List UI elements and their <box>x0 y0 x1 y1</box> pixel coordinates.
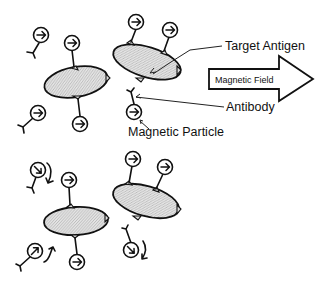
particle-arrow-icon <box>65 36 80 51</box>
particle-arrow-icon <box>31 163 46 178</box>
free-magnetic-particle <box>27 28 49 59</box>
bound-magnetic-particle <box>163 23 178 52</box>
target-antigen <box>109 177 183 225</box>
rotation-arrow-icon <box>142 241 147 259</box>
particle-arrow-icon <box>73 117 88 132</box>
rotation-arrow-icon <box>46 163 53 183</box>
free-magnetic-particle <box>18 106 46 134</box>
particle-arrow-icon <box>70 255 85 270</box>
magnetic-immunoassay-diagram: Target Antigen Antibody Magnetic Particl… <box>0 0 322 283</box>
particle-arrow-icon <box>127 105 142 120</box>
antibody-leader <box>136 97 224 107</box>
target-antigen <box>43 204 109 238</box>
bound-magnetic-particle <box>62 173 77 206</box>
bound-magnetic-particle <box>126 152 141 184</box>
label-antibody: Antibody <box>226 100 275 114</box>
target-antigen <box>109 37 185 86</box>
rotating-magnetic-particle <box>27 163 53 194</box>
label-magnetic-particle: Magnetic Particle <box>128 125 224 139</box>
rotating-magnetic-particle <box>16 244 55 272</box>
top-panel: Target Antigen Antibody Magnetic Particl… <box>18 15 313 140</box>
free-magnetic-particle <box>127 88 142 120</box>
bound-magnetic-particle <box>156 160 173 190</box>
bottom-panel <box>16 152 183 272</box>
particle-arrow-icon <box>158 160 173 175</box>
bound-magnetic-particle <box>73 99 88 132</box>
particle-arrow-icon <box>124 243 139 258</box>
particle-arrow-icon <box>129 15 144 30</box>
magnetic-field-arrow: Magnetic Field <box>209 56 313 101</box>
target-antigen <box>42 62 110 103</box>
rotation-arrow-icon <box>44 247 55 262</box>
particle-arrow-icon <box>28 244 43 259</box>
bound-magnetic-particle <box>129 15 144 43</box>
particle-arrow-icon <box>126 152 141 167</box>
label-magnetic-field: Magnetic Field <box>215 75 274 85</box>
leader-arrowhead <box>136 94 141 98</box>
particle-arrow-icon <box>62 173 77 188</box>
particle-arrow-icon <box>31 106 46 121</box>
particle-arrow-icon <box>34 28 49 43</box>
rotating-magnetic-particle <box>122 225 147 259</box>
bound-magnetic-particle <box>70 238 85 270</box>
particle-arrow-icon <box>163 23 178 38</box>
bound-magnetic-particle <box>65 36 80 68</box>
label-target-antigen: Target Antigen <box>225 39 305 53</box>
